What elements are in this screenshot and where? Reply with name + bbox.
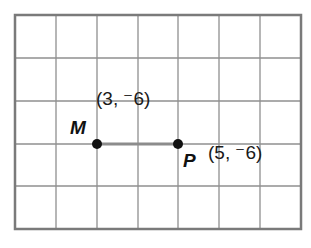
grid-border [15, 15, 301, 229]
coordinate-grid-diagram: M (3, ⁻6) P (5, ⁻6) [0, 0, 311, 248]
point-p-coords: (5, ⁻6) [208, 142, 262, 163]
point-m [92, 139, 102, 149]
point-p-label: P [183, 150, 196, 171]
point-m-coords: (3, ⁻6) [96, 88, 150, 109]
point-p [173, 139, 183, 149]
grid-lines [15, 15, 301, 229]
point-m-label: M [70, 117, 87, 138]
